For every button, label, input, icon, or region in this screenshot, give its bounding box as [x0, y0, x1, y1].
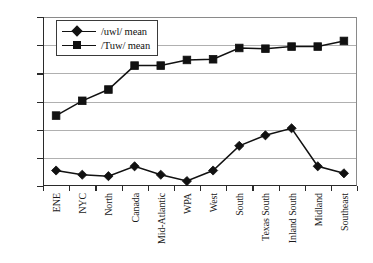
data-point-square	[157, 62, 165, 70]
data-point-square	[340, 37, 348, 45]
data-point-square	[105, 86, 113, 94]
data-point-square	[262, 45, 270, 53]
data-point-square	[235, 44, 243, 52]
data-point-diamond	[339, 169, 348, 178]
line-chart: 800100012001400160018002000 ENENYCNorthC…	[0, 0, 373, 263]
data-point-diamond	[104, 172, 113, 181]
legend-item-tuw: /Tuw/ mean	[62, 38, 150, 52]
square-marker-icon	[62, 39, 96, 51]
legend-item-label: /Tuw/ mean	[96, 40, 150, 51]
data-point-diamond	[51, 166, 60, 175]
data-point-square	[78, 97, 86, 105]
series-line	[56, 128, 344, 181]
data-point-square	[52, 112, 60, 120]
chart-legend: /uwl/ mean /Tuw/ mean	[56, 20, 158, 56]
data-point-diamond	[182, 176, 191, 185]
data-point-square	[131, 62, 139, 70]
data-point-square	[288, 43, 296, 51]
data-point-diamond	[78, 170, 87, 179]
data-point-diamond	[287, 124, 296, 133]
legend-item-label: /uwl/ mean	[96, 26, 147, 37]
series-uwl	[51, 124, 348, 186]
data-point-diamond	[261, 131, 270, 140]
data-point-square	[183, 56, 191, 64]
data-point-square	[314, 43, 322, 51]
data-point-diamond	[156, 170, 165, 179]
data-point-diamond	[130, 162, 139, 171]
data-point-square	[209, 55, 217, 63]
diamond-marker-icon	[62, 25, 96, 37]
data-point-diamond	[313, 162, 322, 171]
legend-item-uwl: /uwl/ mean	[62, 24, 150, 38]
